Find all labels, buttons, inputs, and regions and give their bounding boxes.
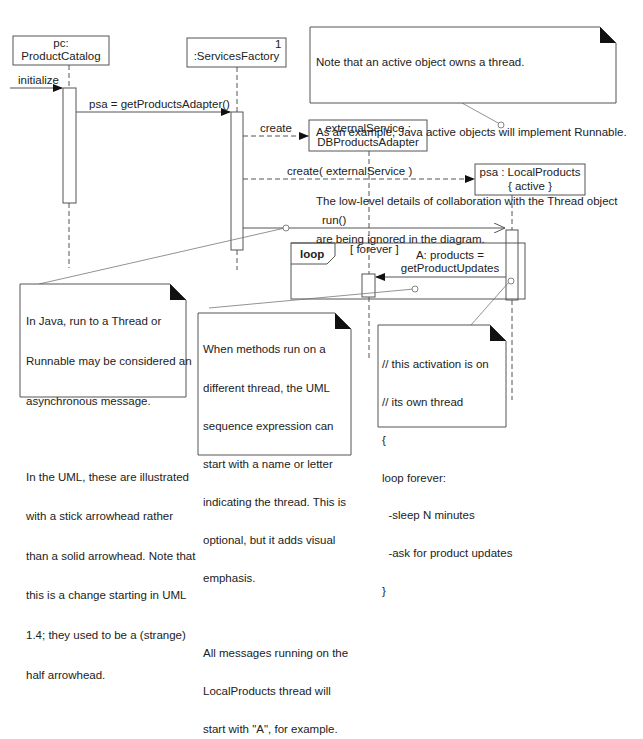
message-create-label: create bbox=[260, 122, 292, 135]
note-anchor-thread-name bbox=[412, 286, 418, 292]
activation-pc bbox=[63, 88, 76, 203]
note-activation-text: // this activation is on // its own thre… bbox=[382, 333, 512, 610]
note-anchor-run bbox=[283, 225, 289, 231]
note-thread-name-text: When methods run on a different thread, … bbox=[203, 318, 348, 739]
note-java-run-text: In Java, run to a Thread or Runnable may… bbox=[26, 289, 195, 695]
message-get-adapter-label: psa = getProductsAdapter() bbox=[89, 98, 230, 111]
note-active-object-text: Note that an active object owns a thread… bbox=[316, 31, 627, 258]
lifeline-pc-label-2: ProductCatalog bbox=[13, 50, 109, 63]
message-initialize-label: initialize bbox=[18, 74, 59, 87]
lifeline-factory-label: :ServicesFactory bbox=[187, 50, 286, 63]
lifeline-pc-label-1: pc: bbox=[13, 37, 109, 50]
note-anchor-activation bbox=[508, 278, 514, 284]
message-products-label-2: getProductUpdates bbox=[390, 262, 510, 275]
activation-factory bbox=[231, 112, 243, 250]
